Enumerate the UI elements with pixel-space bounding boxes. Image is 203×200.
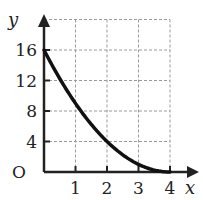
y-tick-label: 8 [26,101,37,121]
x-tick-label: 2 [102,178,113,198]
ticks: 1234481216 [15,40,175,198]
y-tick-label: 4 [26,132,37,152]
chart: 1234481216 y x O [0,0,203,200]
y-axis-arrow-icon [38,14,50,27]
y-tick-label: 12 [15,71,37,91]
origin-label: O [12,162,26,182]
x-tick-label: 4 [165,178,176,198]
y-tick-label: 16 [15,40,37,60]
x-tick-label: 3 [133,178,144,198]
x-tick-label: 1 [70,178,81,198]
y-axis-label: y [7,9,19,30]
grid-lines [44,20,170,173]
x-axis-label: x [185,177,195,198]
